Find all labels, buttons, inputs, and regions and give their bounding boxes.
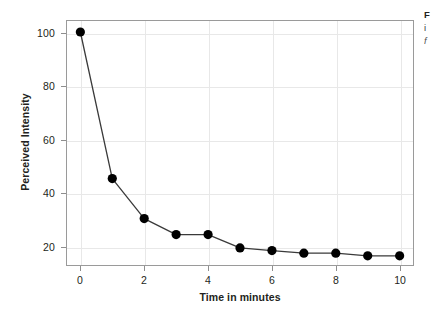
gridline-y-60	[67, 141, 413, 142]
y-axis-title: Perceived Intensity	[19, 52, 31, 232]
x-tick-mark-2	[144, 266, 145, 271]
side-cutoff-text: F i f	[424, 8, 433, 47]
side-text-line-3: f	[424, 34, 433, 47]
gridline-x-4	[209, 21, 210, 265]
x-tick-mark-4	[208, 266, 209, 271]
gridline-x-2	[145, 21, 146, 265]
x-tick-label-2: 2	[129, 274, 159, 286]
chart-figure: 100 80 60 40 20 0 2 4 6 8 10 Time in min…	[0, 0, 433, 323]
x-tick-label-4: 4	[193, 274, 223, 286]
x-tick-mark-6	[272, 266, 273, 271]
x-tick-label-8: 8	[321, 274, 351, 286]
y-tick-mark-100	[61, 33, 66, 34]
x-tick-label-6: 6	[257, 274, 287, 286]
y-tick-label-100: 100	[15, 27, 55, 39]
y-tick-label-20: 20	[15, 241, 55, 253]
x-tick-label-10: 10	[385, 274, 415, 286]
y-tick-mark-80	[61, 86, 66, 87]
gridline-x-10	[401, 21, 402, 265]
plot-area	[66, 20, 414, 266]
y-tick-mark-20	[61, 247, 66, 248]
x-tick-mark-0	[80, 266, 81, 271]
x-axis-title: Time in minutes	[66, 291, 414, 303]
gridline-x-8	[337, 21, 338, 265]
gridline-y-100	[67, 34, 413, 35]
x-tick-mark-10	[400, 266, 401, 271]
x-tick-label-0: 0	[65, 274, 95, 286]
gridline-y-80	[67, 87, 413, 88]
gridline-x-0	[81, 21, 82, 265]
y-tick-mark-60	[61, 140, 66, 141]
gridline-x-6	[273, 21, 274, 265]
side-text-line-1: F	[424, 8, 433, 21]
gridline-y-20	[67, 248, 413, 249]
side-text-line-2: i	[424, 21, 433, 34]
x-tick-mark-8	[336, 266, 337, 271]
y-tick-mark-40	[61, 193, 66, 194]
gridline-y-40	[67, 194, 413, 195]
